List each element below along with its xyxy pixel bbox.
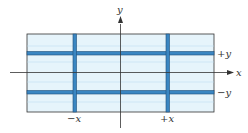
minus-x-label: −x (67, 113, 81, 124)
y-axis-label: y (116, 4, 123, 15)
x-axis-label: x (236, 67, 242, 78)
coordinate-grid-diagram: y x +y −y −x +x (0, 0, 248, 133)
plus-x-label: +x (160, 113, 174, 124)
plus-y-label: +y (217, 48, 231, 59)
band-minus-x (73, 34, 77, 112)
x-axis-arrow-icon (227, 70, 234, 75)
y-axis-arrow-icon (118, 16, 123, 23)
minus-y-label: −y (217, 87, 231, 98)
band-plus-x (166, 34, 170, 112)
